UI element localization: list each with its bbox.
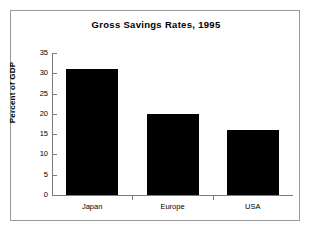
x-tick [213,196,214,200]
y-tick-label: 15 [26,130,48,138]
y-tick-label: 20 [26,110,48,118]
y-tick [53,94,57,95]
bar [227,130,279,195]
y-tick-label: 0 [26,191,48,199]
y-axis-tick-labels: 05101520253035 [26,0,48,235]
y-tick [53,114,57,115]
y-tick-label: 5 [26,171,48,179]
y-tick-label: 35 [26,49,48,57]
y-tick-label: 10 [26,150,48,158]
y-tick [53,195,57,196]
x-axis-line [52,195,293,196]
y-tick [53,53,57,54]
chart-figure: Gross Savings Rates, 1995 Percent of GDP… [0,0,312,235]
y-tick [53,73,57,74]
x-tick-label: Europe [133,203,213,211]
x-tick [132,196,133,200]
y-tick-label: 25 [26,90,48,98]
x-tick-label: Japan [52,203,132,211]
y-tick [53,154,57,155]
y-tick-label: 30 [26,69,48,77]
bar [66,69,118,195]
y-axis-title: Percent of GDP [8,43,17,143]
y-tick [53,175,57,176]
y-tick [53,134,57,135]
x-tick-label: USA [213,203,293,211]
bar [147,114,199,195]
